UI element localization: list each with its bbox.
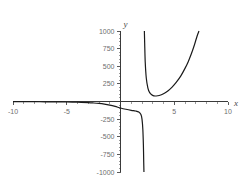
y-tick-label: 750 [103, 45, 115, 52]
x-tick-label: -5 [64, 108, 70, 115]
y-tick-label: -750 [100, 151, 114, 158]
y-tick-label: -250 [100, 116, 114, 123]
curve-left-branch [13, 102, 144, 172]
y-tick-label: -1000 [97, 169, 115, 176]
y-tick-label: -500 [100, 133, 114, 140]
y-tick-label: 1000 [99, 28, 115, 35]
x-tick-label: 10 [224, 108, 232, 115]
y-tick-label: 500 [103, 63, 115, 70]
x-tick-label: -10 [8, 108, 18, 115]
x-tick-label: 5 [172, 108, 176, 115]
function-plot: -10-5510 1000750500250-250-500-750-1000 … [0, 0, 245, 184]
curve-right-branch [144, 31, 199, 96]
y-tick-label: 250 [103, 80, 115, 87]
x-axis-label: x [233, 98, 238, 108]
y-axis-label: y [123, 19, 128, 29]
plot-canvas: -10-5510 1000750500250-250-500-750-1000 … [0, 0, 245, 184]
